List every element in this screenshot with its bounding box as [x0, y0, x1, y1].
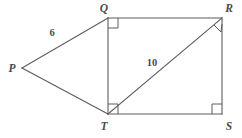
- segment-PQ: [22, 18, 108, 68]
- right-angle-R: [214, 24, 222, 32]
- vertex-label-P: P: [8, 62, 16, 74]
- vertex-label-R: R: [224, 2, 233, 14]
- right-angle-S: [212, 104, 222, 114]
- vertex-label-Q: Q: [100, 2, 108, 14]
- segment-PT: [22, 68, 108, 114]
- geometry-canvas: P Q R S T 6 10: [0, 0, 242, 138]
- vertex-label-T: T: [100, 120, 108, 132]
- length-label-TR: 10: [147, 57, 158, 68]
- length-label-PQ: 6: [49, 27, 54, 38]
- geometry-figure: P Q R S T 6 10: [0, 0, 242, 138]
- segment-TR: [108, 18, 222, 114]
- vertex-label-S: S: [226, 120, 232, 132]
- right-angle-Q: [108, 18, 118, 28]
